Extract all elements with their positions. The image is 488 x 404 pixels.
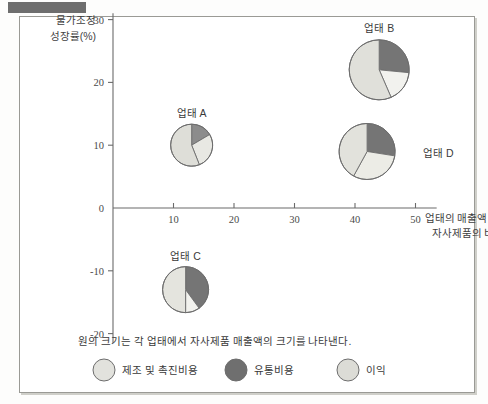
- pie-slice-업태-C-제조 및 촉진비용[interactable]: [163, 267, 186, 313]
- pie-marker-업태-C[interactable]: [163, 267, 209, 313]
- x-axis-title-line2: 자사제품의 비율%: [432, 227, 488, 239]
- x-tick-label-40: 40: [350, 214, 361, 225]
- pie-marker-업태-A[interactable]: [171, 124, 213, 166]
- pie-label-업태-D: 업태 D: [423, 147, 454, 159]
- legend-label-1: 유통비용: [254, 364, 294, 376]
- y-tick-label--10: -10: [90, 266, 104, 277]
- pie-label-업태-B: 업태 B: [364, 22, 394, 34]
- pie-label-업태-A: 업태 A: [177, 107, 207, 119]
- pie-marker-업태-D[interactable]: [339, 123, 395, 179]
- y-axis-title-line1: 물가조정: [56, 14, 96, 26]
- bubble-pie-chart: 3020100-10-201020304050 업태 A업태 B업태 C업태 D…: [0, 0, 488, 404]
- legend-swatch-0: [93, 359, 115, 381]
- legend-swatch-1: [225, 359, 247, 381]
- pie-markers: 업태 A업태 B업태 C업태 D: [163, 22, 454, 313]
- x-tick-label-50: 50: [410, 214, 421, 225]
- y-tick-label-20: 20: [94, 77, 105, 88]
- y-tick-label-0: 0: [99, 203, 104, 214]
- legend-label-2: 이익: [366, 364, 386, 376]
- figure-page: 3020100-10-201020304050 업태 A업태 B업태 C업태 D…: [0, 0, 488, 404]
- legend-swatch-2: [337, 359, 359, 381]
- caption: 원의 크기는 각 업태에서 자사제품 매출액의 크기를 나타낸다.: [78, 335, 351, 347]
- pie-label-업태-C: 업태 C: [170, 250, 201, 262]
- x-tick-label-30: 30: [289, 214, 300, 225]
- pie-slice-업태-D-유통비용[interactable]: [367, 123, 395, 155]
- x-tick-label-10: 10: [168, 214, 179, 225]
- pie-marker-업태-B[interactable]: [349, 40, 409, 100]
- axis-titles: 물가조정성장률(%)업태의 매출액 중자사제품의 비율%: [50, 14, 488, 239]
- legend: 제조 및 촉진비용유통비용이익: [93, 359, 386, 381]
- pie-slice-업태-B-유통비용[interactable]: [379, 40, 409, 73]
- chart-caption: 원의 크기는 각 업태에서 자사제품 매출액의 크기를 나타낸다.: [78, 335, 351, 347]
- y-tick-label-10: 10: [94, 140, 105, 151]
- legend-label-0: 제조 및 촉진비용: [122, 364, 198, 376]
- x-tick-label-20: 20: [229, 214, 240, 225]
- y-axis-title-line2: 성장률(%): [50, 30, 96, 42]
- x-axis-title-line1: 업태의 매출액 중: [425, 212, 488, 224]
